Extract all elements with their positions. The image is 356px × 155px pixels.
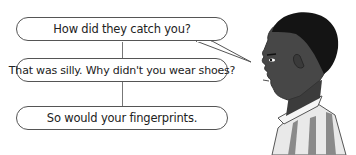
connector-line-1 bbox=[122, 42, 123, 58]
connector-line-2 bbox=[122, 82, 123, 106]
speech-bubble-question: How did they catch you? bbox=[16, 17, 228, 41]
response-box-2: So would your fingerprints. bbox=[16, 106, 228, 130]
dialogue-line-1: How did they catch you? bbox=[53, 22, 190, 36]
dialogue-line-2: That was silly. Why didn't you wear shoe… bbox=[9, 64, 235, 77]
man-portrait bbox=[262, 12, 346, 155]
response-box-1: That was silly. Why didn't you wear shoe… bbox=[16, 58, 228, 82]
dialogue-line-3: So would your fingerprints. bbox=[47, 111, 197, 125]
